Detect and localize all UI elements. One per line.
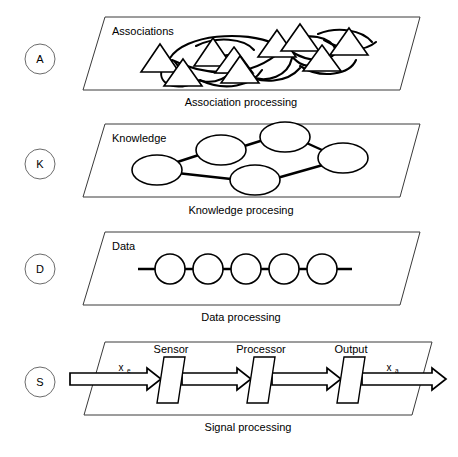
signal-arrow-1 bbox=[182, 368, 251, 390]
signal-block-processor bbox=[247, 357, 275, 403]
layer-signal: S Sensor Processor Output x e x a bbox=[25, 342, 446, 433]
signal-block-label-sensor: Sensor bbox=[154, 343, 189, 355]
layer-inner-label-k: Knowledge bbox=[112, 132, 166, 144]
layer-caption-a: Association processing bbox=[185, 96, 298, 108]
signal-output-subscript: a bbox=[395, 367, 399, 374]
signal-block-output bbox=[337, 357, 365, 403]
layer-data: D Data Data processing bbox=[25, 232, 420, 323]
signal-arrow-output bbox=[362, 368, 446, 390]
signal-arrow-2 bbox=[272, 368, 341, 390]
signal-arrow-input bbox=[70, 368, 161, 390]
signal-output-label: x bbox=[387, 362, 392, 373]
layer-marker-label-d: D bbox=[36, 263, 44, 275]
layer-knowledge: K Knowledge Knowledge procesing bbox=[25, 122, 420, 216]
knowledge-nodes bbox=[132, 122, 368, 195]
layer-marker-label-k: K bbox=[36, 158, 44, 170]
layer-marker-label-s: S bbox=[36, 376, 43, 388]
signal-block-sensor bbox=[157, 357, 185, 403]
layer-caption-s: Signal processing bbox=[205, 421, 292, 433]
diagram-canvas: A Associations bbox=[0, 0, 458, 457]
signal-input-label: x bbox=[119, 362, 124, 373]
layer-associations: A Associations bbox=[25, 17, 420, 108]
association-nodes bbox=[141, 24, 368, 86]
layer-inner-label-d: Data bbox=[112, 240, 136, 252]
signal-input-subscript: e bbox=[127, 367, 131, 374]
signal-block-label-processor: Processor bbox=[236, 343, 286, 355]
layer-marker-label-a: A bbox=[36, 53, 44, 65]
layer-caption-d: Data processing bbox=[201, 311, 281, 323]
signal-block-label-output: Output bbox=[334, 343, 367, 355]
data-nodes bbox=[155, 254, 337, 284]
layer-inner-label-a: Associations bbox=[112, 25, 174, 37]
layer-caption-k: Knowledge procesing bbox=[188, 204, 293, 216]
